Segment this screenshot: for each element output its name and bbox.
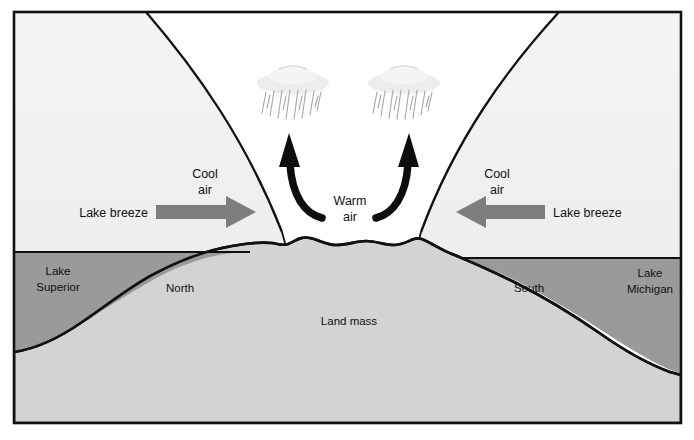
label-warm-air-line1: Warm [334,194,367,208]
label-cool-air-left-line1: Cool [192,167,218,181]
label-cool-air-right-line1: Cool [484,167,510,181]
label-south: South [514,282,544,294]
label-lake-michigan-line2: Michigan [627,283,673,295]
diagram-canvas: Cool air Cool air Warm air Lake breeze L… [0,0,694,440]
label-warm-air-line2: air [343,210,357,224]
label-lake-michigan-line1: Lake [638,267,663,279]
label-cool-air-right-line2: air [490,183,504,197]
label-cool-air-left-line2: air [198,183,212,197]
label-lake-breeze-left: Lake breeze [79,206,148,220]
label-north: North [166,282,194,294]
lake-breeze-diagram: Cool air Cool air Warm air Lake breeze L… [0,0,694,440]
label-lake-superior-line2: Superior [36,281,80,293]
label-land-mass: Land mass [321,315,378,327]
label-lake-superior-line1: Lake [46,265,71,277]
label-lake-breeze-right: Lake breeze [553,206,622,220]
